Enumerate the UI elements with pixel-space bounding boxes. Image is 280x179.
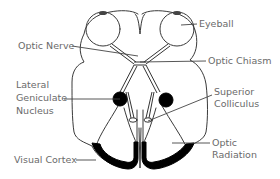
left-sc-branch bbox=[126, 92, 134, 118]
longitudinal-fissure-lower bbox=[139, 128, 141, 168]
label-visual-cortex: Visual Cortex bbox=[14, 154, 77, 165]
label-sc-line1: Superior bbox=[214, 86, 254, 97]
label-lgn-line1: Lateral bbox=[16, 79, 49, 90]
right-visual-cortex bbox=[142, 142, 194, 169]
right-inner-contour bbox=[162, 106, 186, 146]
right-optic-tract bbox=[143, 65, 160, 93]
eyeball-leader bbox=[181, 24, 197, 25]
label-eyeball: Eyeball bbox=[199, 18, 234, 29]
left-hemisphere-outline bbox=[72, 11, 138, 168]
left-eyeball bbox=[86, 12, 120, 46]
right-optic-nerve bbox=[144, 44, 170, 64]
left-inner-contour bbox=[96, 106, 118, 146]
longitudinal-fissure bbox=[135, 14, 145, 34]
label-lgn-line2: Geniculate bbox=[16, 92, 67, 103]
right-lateral-geniculate-nucleus bbox=[159, 93, 173, 107]
left-superior-colliculus bbox=[129, 118, 137, 122]
label-optic-chiasm: Optic Chiasm bbox=[208, 55, 271, 66]
optic-nerve-leader bbox=[72, 46, 138, 56]
right-sc-branch bbox=[146, 92, 154, 118]
right-eyeball bbox=[160, 12, 194, 46]
right-pupil bbox=[173, 11, 181, 15]
visual-pathway-diagram: Eyeball Optic Nerve Optic Chiasm Lateral… bbox=[0, 0, 280, 179]
optic-chiasm bbox=[134, 62, 146, 65]
superior-colliculus-leader bbox=[148, 95, 212, 121]
label-sc-line2: Colliculus bbox=[214, 98, 259, 109]
left-optic-tract bbox=[120, 65, 137, 93]
label-lgn-line3: Nucleus bbox=[16, 105, 54, 116]
label-or-line2: Radiation bbox=[212, 149, 257, 160]
left-pupil bbox=[99, 11, 107, 15]
right-hemisphere-outline bbox=[142, 11, 208, 168]
label-optic-nerve: Optic Nerve bbox=[18, 40, 75, 51]
label-or-line1: Optic bbox=[212, 137, 237, 148]
